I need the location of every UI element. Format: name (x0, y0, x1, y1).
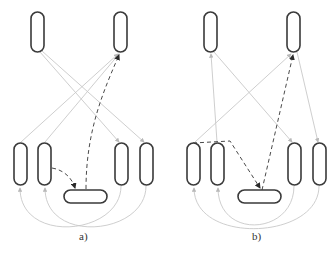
node-b-bottom-2 (211, 143, 224, 185)
edge-b-b1-to-center-dashed (193, 141, 260, 188)
node-b-bottom-1 (187, 143, 200, 185)
panel-b: b) (187, 12, 326, 243)
edge-a-top-left-to-b3 (40, 52, 119, 142)
node-b-bottom-3 (288, 143, 301, 185)
edge-b-b2-to-top-left (211, 54, 217, 142)
node-a-bottom-1 (14, 143, 27, 185)
node-b-top-right (287, 12, 300, 52)
node-a-bottom-4 (140, 143, 153, 185)
panel-a: a) (14, 12, 153, 243)
node-a-bottom-2 (38, 143, 51, 185)
node-a-top-right (114, 12, 127, 52)
node-b-center-horizontal (238, 190, 281, 203)
diagram-canvas: a) b) (0, 0, 335, 266)
node-b-bottom-4 (313, 143, 326, 185)
edge-b-b1-to-top-right (195, 54, 291, 142)
edge-a-top-left-to-b4 (42, 51, 144, 142)
panel-b-caption: b) (252, 230, 262, 243)
edge-b-top-right-to-b4 (297, 52, 318, 142)
node-b-top-left (204, 12, 217, 52)
edge-b-top-left-to-b3 (214, 52, 292, 142)
panel-a-caption: a) (79, 230, 88, 243)
edge-a-center-to-top-right-dashed (86, 55, 119, 189)
edge-a-b2-to-center-dashed (52, 168, 75, 188)
node-a-center-horizontal (64, 190, 107, 203)
panel-b-dashed-edges (193, 55, 293, 190)
edge-a-b1-to-top-right (21, 54, 118, 142)
node-a-bottom-3 (115, 143, 128, 185)
node-a-top-left (31, 12, 44, 52)
